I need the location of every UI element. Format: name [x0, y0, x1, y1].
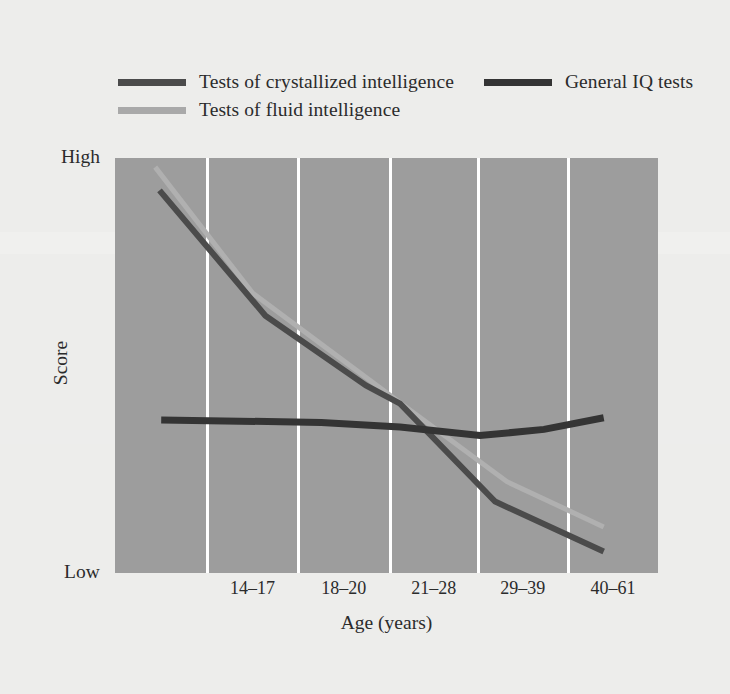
legend-label-crystallized: Tests of crystallized intelligence: [199, 71, 454, 93]
y-axis-low-label: Low: [64, 561, 100, 583]
series-line-tests-of-fluid-intelligence: [155, 167, 604, 527]
legend-entry-general-iq: General IQ tests: [484, 71, 693, 93]
legend-label-fluid: Tests of fluid intelligence: [199, 99, 400, 121]
legend-row-1: Tests of crystallized intelligence Gener…: [118, 68, 698, 96]
legend-entry-crystallized: Tests of crystallized intelligence: [118, 71, 454, 93]
x-tick-label-4: 40–61: [590, 578, 635, 599]
data-series-group: [155, 167, 604, 551]
legend-row-2: Tests of fluid intelligence: [118, 96, 698, 124]
y-axis-high-label: High: [61, 146, 100, 168]
x-tick-label-3: 29–39: [500, 578, 545, 599]
legend-swatch-crystallized-line: [118, 79, 186, 86]
legend-swatch-fluid-line: [118, 107, 186, 114]
x-tick-label-1: 18–20: [321, 578, 366, 599]
x-tick-label-2: 21–28: [411, 578, 456, 599]
y-axis-title: Score: [50, 298, 72, 428]
legend-label-general-iq: General IQ tests: [565, 71, 693, 93]
x-axis-tick-labels: 14–1718–2021–2829–3940–61: [115, 578, 658, 604]
plot-area: [115, 158, 658, 573]
legend-entry-fluid: Tests of fluid intelligence: [118, 99, 400, 121]
chart-legend: Tests of crystallized intelligence Gener…: [118, 68, 698, 124]
x-tick-label-0: 14–17: [230, 578, 275, 599]
legend-swatch-general-iq-line: [484, 79, 552, 86]
x-axis-title: Age (years): [115, 612, 658, 634]
series-line-general-iq-tests: [161, 418, 604, 436]
figure-canvas: Tests of crystallized intelligence Gener…: [0, 0, 730, 694]
plot-svg: [115, 158, 658, 573]
